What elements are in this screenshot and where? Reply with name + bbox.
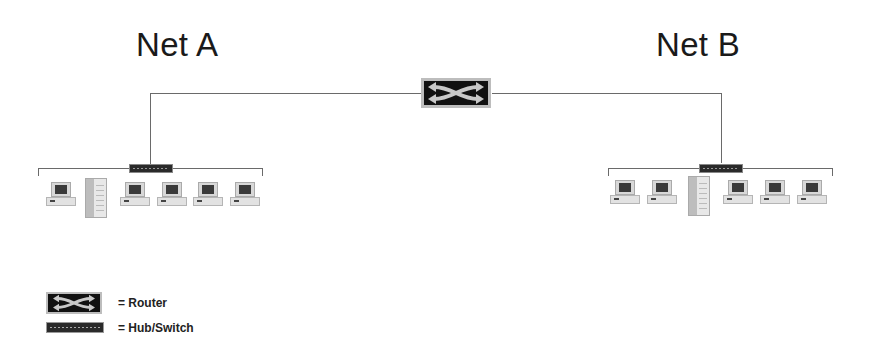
legend-router-label: = Router [118,296,167,310]
net-b-title: Net B [656,26,740,64]
net-b-laptop-1 [610,180,640,210]
net-a-segment-end-right [262,168,263,176]
drop-net-a [150,93,151,164]
net-a-laptop-2 [120,182,150,212]
router [421,78,491,108]
drop-net-b [721,93,722,163]
net-a-hub-switch [129,164,173,173]
legend-hub-switch-label: = Hub/Switch [118,321,194,335]
net-a-server [85,178,107,218]
net-b-segment-end-right [832,168,833,176]
net-b-laptop-2 [647,180,677,210]
net-b-laptop-3 [723,180,753,210]
net-a-laptop-1 [46,182,76,212]
net-a-title: Net A [136,26,218,64]
net-b-laptop-5 [797,180,827,210]
link-net-a-router [150,93,422,94]
net-b-laptop-4 [760,180,790,210]
router-arrows-icon [424,81,488,105]
legend-hub-switch-icon [46,322,104,333]
net-a-segment-end-left [38,168,39,176]
link-router-net-b [492,93,721,94]
legend-router-icon [46,292,102,314]
net-b-segment-end-left [608,168,609,176]
net-a-laptop-4 [193,182,223,212]
net-b-hub-switch [699,164,743,173]
router-arrows-icon [48,294,100,312]
net-b-server [688,176,710,216]
net-a-laptop-3 [157,182,187,212]
net-a-laptop-5 [230,182,260,212]
